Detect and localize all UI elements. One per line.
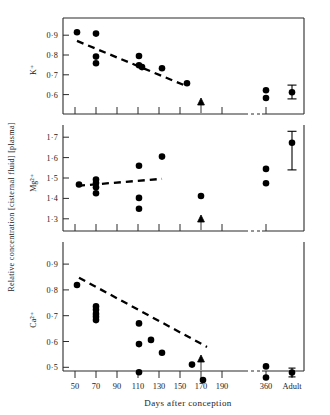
xtick-label: 170 bbox=[195, 382, 208, 391]
y-axis-title: Relative concentration [cisternal fluid]… bbox=[7, 122, 16, 292]
panel2-ytick-label: 1·7 bbox=[46, 133, 58, 142]
data-point bbox=[136, 205, 143, 212]
data-point bbox=[76, 181, 83, 188]
data-point bbox=[93, 53, 100, 60]
x-axis-tick-labels: 50 70 90 110 130 150 170 190 360 Adult bbox=[71, 382, 302, 391]
panel3-x-ticks bbox=[75, 371, 292, 378]
data-point bbox=[263, 180, 270, 187]
panel1-y-ticks: 0·9 0·8 0·7 0·6 bbox=[46, 31, 69, 99]
birth-arrow-icon-panel1 bbox=[198, 98, 205, 113]
data-point bbox=[93, 317, 100, 324]
data-point bbox=[93, 190, 100, 197]
data-point bbox=[263, 87, 270, 94]
data-point bbox=[136, 369, 143, 376]
xtick-label: 50 bbox=[71, 382, 79, 391]
panel3-ytick-label: 0·8 bbox=[46, 286, 58, 295]
data-point bbox=[136, 341, 143, 348]
data-point bbox=[93, 60, 100, 67]
panel3-ytick-label: 0·5 bbox=[46, 363, 58, 372]
panel1-data-points bbox=[74, 29, 270, 101]
data-point bbox=[136, 320, 143, 327]
panel3-data-points bbox=[74, 282, 270, 384]
panel-calcium: 0·9 0·8 0·7 0·6 0·5 bbox=[46, 242, 304, 383]
panel2-adult-errorbar bbox=[288, 131, 297, 170]
data-point bbox=[184, 80, 191, 87]
panel3-adult-errorbar bbox=[289, 368, 296, 377]
data-point bbox=[136, 53, 143, 60]
data-point bbox=[159, 153, 166, 160]
figure-container: Relative concentration [cisternal fluid]… bbox=[0, 0, 330, 415]
xtick-label: Adult bbox=[282, 382, 302, 391]
panel2-y-ticks: 1·7 1·6 1·5 1·4 1·3 bbox=[46, 133, 69, 224]
xtick-label: 110 bbox=[132, 382, 144, 391]
data-point bbox=[159, 65, 166, 72]
adult-mean-point bbox=[289, 139, 296, 146]
panel2-trend-line bbox=[78, 179, 162, 186]
data-point bbox=[159, 350, 166, 357]
panel2-ytick-label: 1·4 bbox=[46, 194, 58, 203]
x-axis-title: Days after conception bbox=[144, 398, 231, 408]
data-point bbox=[136, 195, 143, 202]
panel-label-magnesium: Mg²⁺ bbox=[29, 174, 38, 192]
data-point bbox=[74, 282, 81, 289]
data-point bbox=[198, 193, 205, 200]
panel3-ytick-label: 0·7 bbox=[46, 312, 58, 321]
data-point bbox=[148, 337, 155, 344]
data-point bbox=[263, 363, 270, 370]
data-point bbox=[263, 374, 270, 381]
data-point bbox=[263, 166, 270, 173]
data-point bbox=[263, 95, 270, 102]
xtick-label: 360 bbox=[260, 382, 273, 391]
concentration-scatter-chart: Relative concentration [cisternal fluid]… bbox=[0, 0, 330, 415]
data-point bbox=[136, 163, 143, 170]
xtick-label: 70 bbox=[92, 382, 100, 391]
adult-mean-point bbox=[289, 369, 296, 376]
xtick-label: 130 bbox=[153, 382, 166, 391]
panel2-ytick-label: 1·3 bbox=[46, 215, 58, 224]
panel-potassium: 0·9 0·8 0·7 0·6 bbox=[46, 18, 304, 114]
xtick-label: 90 bbox=[113, 382, 121, 391]
xtick-label: 150 bbox=[174, 382, 187, 391]
panel1-x-ticks bbox=[75, 107, 266, 114]
panel2-ytick-label: 1·6 bbox=[46, 154, 58, 163]
panel-label-calcium: Ca²⁺ bbox=[29, 312, 38, 327]
birth-arrow-icon-panel2 bbox=[198, 215, 205, 230]
panel1-ytick-label: 0·6 bbox=[46, 91, 58, 100]
panel1-ytick-label: 0·8 bbox=[46, 51, 58, 60]
panel2-x-ticks bbox=[75, 224, 266, 231]
panel-magnesium: 1·7 1·6 1·5 1·4 1·3 bbox=[46, 125, 304, 231]
panel-label-potassium: K⁺ bbox=[29, 65, 38, 75]
data-point bbox=[139, 64, 146, 71]
adult-mean-point bbox=[289, 89, 296, 96]
panel3-ytick-label: 0·6 bbox=[46, 338, 58, 347]
panel1-ytick-label: 0·9 bbox=[46, 31, 58, 40]
panel3-ytick-label: 0·9 bbox=[46, 260, 58, 269]
panel1-ytick-label: 0·7 bbox=[46, 71, 58, 80]
xtick-label: 190 bbox=[216, 382, 229, 391]
data-point bbox=[93, 184, 100, 191]
panel1-adult-errorbar bbox=[288, 85, 297, 99]
panel2-ytick-label: 1·5 bbox=[46, 174, 58, 183]
data-point bbox=[74, 29, 81, 36]
birth-arrow-icon-panel3 bbox=[198, 355, 205, 370]
data-point bbox=[93, 30, 100, 37]
panel3-y-ticks: 0·9 0·8 0·7 0·6 0·5 bbox=[46, 260, 69, 372]
data-point bbox=[189, 361, 196, 368]
